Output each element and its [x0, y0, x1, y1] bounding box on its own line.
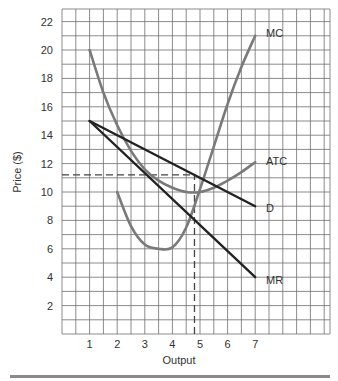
y-tick-label: 16: [41, 101, 53, 113]
y-tick-label: 18: [41, 72, 53, 84]
x-tick-label: 7: [252, 338, 258, 350]
y-tick-label: 4: [47, 271, 53, 283]
y-tick-label: 2: [47, 300, 53, 312]
bottom-rule: [10, 375, 330, 378]
x-tick-label: 4: [169, 338, 175, 350]
y-axis-title: Price ($): [11, 151, 23, 193]
y-tick-label: 6: [47, 243, 53, 255]
mr-label: MR: [266, 274, 283, 286]
y-axis-ticks: 246810121416182022: [41, 16, 53, 312]
x-tick-label: 1: [87, 338, 93, 350]
x-tick-label: 3: [142, 338, 148, 350]
y-tick-label: 10: [41, 186, 53, 198]
d-label: D: [266, 202, 274, 214]
y-tick-label: 8: [47, 214, 53, 226]
x-axis-ticks: 1234567: [87, 338, 259, 350]
y-tick-label: 12: [41, 158, 53, 170]
x-tick-label: 5: [197, 338, 203, 350]
price-output-chart: 246810121416182022 1234567 MC ATC D MR O…: [0, 0, 338, 381]
dashed-guides: [62, 175, 194, 334]
y-tick-label: 20: [41, 44, 53, 56]
y-tick-label: 22: [41, 16, 53, 28]
x-tick-label: 6: [225, 338, 231, 350]
x-tick-label: 2: [114, 338, 120, 350]
grid: [62, 9, 330, 334]
atc-label: ATC: [266, 155, 287, 167]
mc-label: MC: [266, 27, 283, 39]
y-tick-label: 14: [41, 129, 53, 141]
x-axis-title: Output: [162, 354, 195, 366]
